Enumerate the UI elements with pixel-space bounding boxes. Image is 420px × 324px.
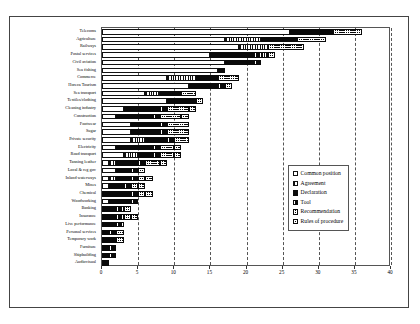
y-axis-label: Postal services (71, 51, 96, 57)
y-axis-label: Electricity (78, 144, 96, 150)
bar-segment (153, 145, 160, 151)
bar-row (102, 222, 124, 228)
y-axis-label: Textiles/clothing (67, 97, 96, 103)
bar-segment (290, 29, 333, 35)
y-axis-label: Sugar (86, 128, 96, 134)
bar-segment (145, 137, 167, 143)
bar-segment (131, 183, 138, 189)
bar-segment (167, 122, 189, 128)
bar-row (102, 145, 181, 151)
bar-segment (189, 106, 196, 112)
bar-segment (160, 91, 182, 97)
y-axis-label: Cleaning industry (65, 105, 96, 111)
y-axis-label: Road transport (71, 151, 96, 157)
legend-label: Declaration (301, 190, 327, 196)
bar-row (102, 199, 138, 205)
legend-swatch-icon (293, 190, 298, 195)
bar-segment (138, 160, 145, 166)
bar-segment (138, 191, 145, 197)
bar-segment (102, 52, 210, 58)
x-tick-label-30: 30 (315, 269, 320, 275)
bar-segment (102, 145, 116, 151)
bar-segment (102, 91, 145, 97)
legend-label: Rules of procedure (301, 219, 344, 225)
bar-segment (102, 114, 116, 120)
legend-swatch-icon (293, 171, 298, 176)
bar-row (102, 206, 131, 212)
y-axis-label: Insurance (79, 213, 96, 219)
x-tick-label-35: 35 (351, 269, 356, 275)
y-axis-label: Inland waterways (66, 175, 96, 181)
y-axis-label: Tanning leather (69, 159, 96, 165)
y-axis-label: Commerce (77, 74, 96, 80)
bar-row (102, 98, 203, 104)
legend-item: Agreement (293, 179, 344, 189)
bar-segment (102, 106, 124, 112)
legend-swatch-icon (293, 181, 298, 186)
x-tick-label-0: 0 (100, 269, 103, 275)
bar-segment (102, 191, 131, 197)
bar-segment (102, 68, 218, 74)
bar-segment (218, 68, 225, 74)
bar-segment (261, 37, 297, 43)
bar-segment (145, 191, 152, 197)
bar-segment (225, 60, 254, 66)
legend-item: Common position (293, 169, 344, 179)
bar-segment (102, 83, 189, 89)
x-tick-label-25: 25 (279, 269, 284, 275)
y-axis-label: Telecoms (80, 28, 96, 34)
bar-row (102, 122, 189, 128)
bar-row (102, 29, 362, 35)
bar-row (102, 160, 167, 166)
bar-segment (109, 253, 116, 259)
y-axis-label: Banking (81, 205, 96, 211)
bar-segment (102, 214, 116, 220)
bar-segment (102, 206, 116, 212)
bar-row (102, 152, 181, 158)
bar-segment (116, 222, 123, 228)
bar-segment (116, 206, 123, 212)
y-axis-label: Personal services (66, 229, 96, 235)
bar-segment (102, 75, 167, 81)
bar-row (102, 245, 116, 251)
legend-label: Tool (301, 200, 311, 206)
bar-row (102, 191, 153, 197)
legend-item: Tool (293, 198, 344, 208)
bar-segment (102, 176, 109, 182)
bar-segment (102, 230, 109, 236)
x-tick-label-5: 5 (136, 269, 139, 275)
bar-row (102, 129, 189, 135)
bar-segment (167, 75, 196, 81)
legend-item: Recommendation (293, 207, 344, 217)
y-axis-label: Agriculture (76, 36, 96, 42)
bar-segment (102, 29, 290, 35)
bar-segment (225, 37, 261, 43)
bar-row (102, 214, 138, 220)
bar-segment (131, 191, 138, 197)
bar-row (102, 237, 124, 243)
bar-segment (225, 83, 232, 89)
bar-segment (109, 230, 116, 236)
bar-segment (102, 122, 131, 128)
bar-row (102, 183, 145, 189)
bar-segment (116, 168, 130, 174)
bar-row (102, 137, 189, 143)
bar-segment (124, 206, 131, 212)
bar-segment (102, 98, 167, 104)
bar-segment (333, 29, 362, 35)
bar-segment (254, 60, 261, 66)
bar-row (102, 75, 239, 81)
bar-segment (167, 98, 196, 104)
bar-segment (116, 114, 152, 120)
bar-row (102, 91, 196, 97)
y-axis-label: Temporary work (67, 236, 96, 242)
bar-segment (102, 183, 109, 189)
bar-segment (102, 237, 116, 243)
bar-row (102, 60, 261, 66)
y-axis-label: Railways (80, 43, 96, 49)
bar-segment (145, 160, 159, 166)
x-tick-label-40: 40 (387, 269, 392, 275)
bar-segment (116, 230, 123, 236)
bar-row (102, 168, 145, 174)
y-axis-label: Sea fishing (77, 67, 96, 73)
